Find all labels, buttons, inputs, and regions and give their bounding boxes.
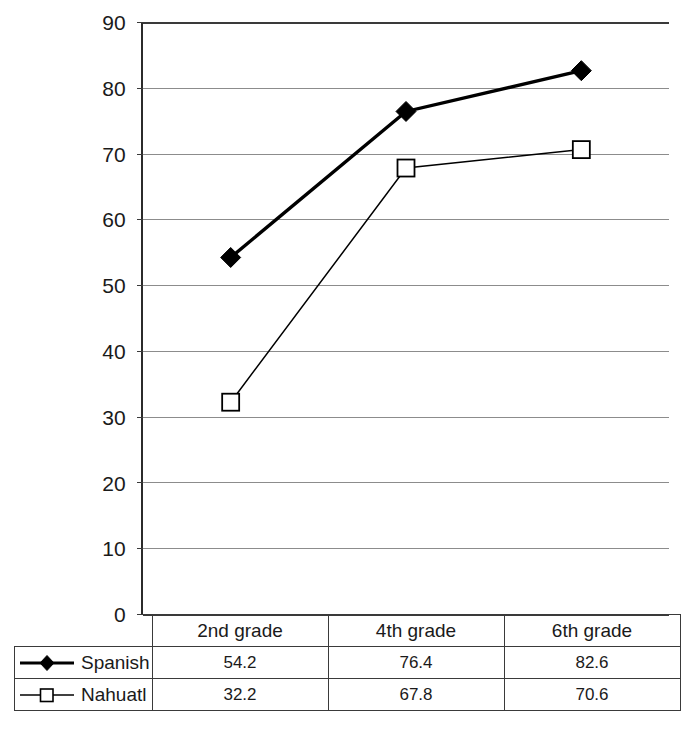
data-point-marker-square <box>398 160 415 177</box>
y-tick-label: 40 <box>66 341 126 362</box>
table-cell: 76.4 <box>328 647 504 679</box>
y-tick-label: 70 <box>66 144 126 165</box>
data-point-marker-square <box>573 141 590 158</box>
legend-marker-filled-diamond-icon <box>19 653 75 673</box>
data-table: 2nd grade 4th grade 6th grade Spanish 54… <box>14 614 681 711</box>
y-tick-label: 20 <box>66 473 126 494</box>
legend-label: Spanish <box>81 652 150 674</box>
y-tick-label: 90 <box>66 12 126 33</box>
data-point-marker-square <box>222 394 239 411</box>
data-point-marker-diamond <box>571 61 591 81</box>
table-header-row: 2nd grade 4th grade 6th grade <box>15 615 681 647</box>
series-nahuatl <box>222 141 590 411</box>
y-tick-label: 50 <box>66 275 126 296</box>
legend-entry-spanish: Spanish <box>15 647 153 679</box>
legend-entry-nahuatl: Nahuatl <box>15 679 153 711</box>
table-cell: 32.2 <box>152 679 328 711</box>
column-header: 2nd grade <box>152 615 328 647</box>
column-header: 6th grade <box>504 615 680 647</box>
legend-label: Nahuatl <box>81 684 147 706</box>
line-chart-with-data-table: 90 80 70 60 50 40 30 20 10 0 <box>0 0 686 729</box>
table-corner-cell <box>15 615 153 647</box>
y-tick-label: 30 <box>66 407 126 428</box>
y-tick-label: 80 <box>66 78 126 99</box>
table-cell: 82.6 <box>504 647 680 679</box>
table-row: Spanish 54.2 76.4 82.6 <box>15 647 681 679</box>
table-row: Nahuatl 32.2 67.8 70.6 <box>15 679 681 711</box>
y-tick-label: 10 <box>66 538 126 559</box>
series-line <box>231 150 582 403</box>
legend-marker-open-square-icon <box>19 685 75 705</box>
plot-area <box>141 22 667 614</box>
y-tick-label: 60 <box>66 209 126 230</box>
series-layer <box>143 22 669 614</box>
table-cell: 67.8 <box>328 679 504 711</box>
table-cell: 70.6 <box>504 679 680 711</box>
column-header: 4th grade <box>328 615 504 647</box>
table-cell: 54.2 <box>152 647 328 679</box>
